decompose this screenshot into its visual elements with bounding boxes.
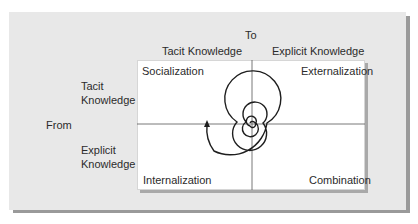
quadrant-combination: Combination: [309, 174, 371, 187]
quadrant-internalization: Internalization: [143, 174, 212, 187]
row-header-explicit-line1: Explicit: [81, 144, 116, 157]
matrix-graphics: [137, 60, 365, 190]
quadrant-socialization: Socialization: [142, 65, 204, 78]
column-header-tacit: Tacit Knowledge: [162, 45, 242, 58]
row-header-tacit-line1: Tacit: [81, 80, 104, 93]
arrow-head-icon: [204, 120, 210, 127]
to-label: To: [245, 29, 257, 42]
row-header-explicit-line2: Knowledge: [81, 158, 135, 171]
from-label: From: [46, 119, 72, 132]
spiral-icon: [207, 71, 281, 155]
row-header-tacit-line2: Knowledge: [81, 94, 135, 107]
column-header-explicit: Explicit Knowledge: [272, 45, 364, 58]
quadrant-externalization: Externalization: [301, 65, 373, 78]
